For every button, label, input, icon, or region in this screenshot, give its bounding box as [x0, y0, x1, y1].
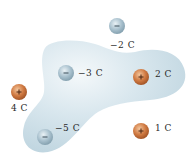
charge-label: −5 C: [55, 123, 80, 133]
gauss-surface-diagram: −2 C−3 C2 C4 C−5 C1 C: [0, 0, 195, 164]
positive-charge-q4: [11, 84, 27, 100]
negative-charge-q5: [37, 129, 53, 145]
charge-label: 4 C: [11, 103, 28, 113]
charge-label: 1 C: [155, 123, 172, 133]
negative-charge-q2: [58, 65, 74, 81]
charge-label: 2 C: [155, 69, 172, 79]
positive-charge-q3: [133, 69, 149, 85]
charge-label: −3 C: [78, 68, 103, 78]
positive-charge-q6: [133, 123, 149, 139]
negative-charge-q1: [109, 18, 125, 34]
charge-label: −2 C: [110, 40, 135, 50]
diagram-canvas: [0, 0, 195, 164]
